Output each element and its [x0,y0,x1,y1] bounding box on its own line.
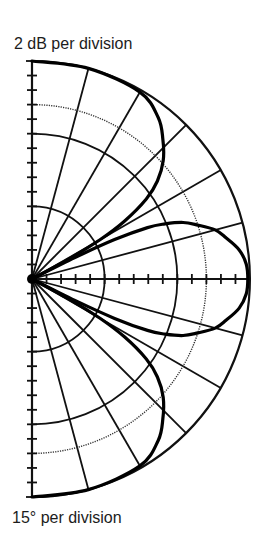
polar-pattern-plot [0,0,262,551]
origin-point [27,274,37,284]
spoke-line [32,68,88,279]
spoke-line [32,279,88,490]
plot-axes [32,61,250,497]
angular-scale-label: 15° per division [12,509,122,527]
radial-scale-label: 2 dB per division [14,35,132,53]
